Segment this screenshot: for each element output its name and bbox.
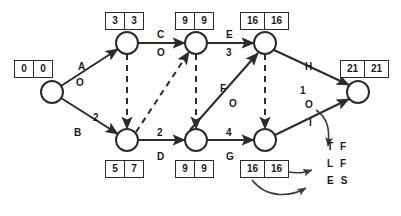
activity-duration-I: O	[305, 100, 313, 110]
legend-es-right: S	[341, 176, 348, 186]
network-diagram-canvas: 0 0 3 3 9 9 16 16 21 21 5 7 9 9 16 16 A …	[0, 0, 401, 216]
activity-label-F: F	[220, 84, 226, 94]
activity-label-E: E	[226, 30, 233, 40]
legend-row-lf: L F	[327, 159, 347, 169]
early-start-value: 3	[106, 13, 125, 29]
activity-label-H: H	[305, 62, 312, 72]
late-finish-value: 3	[125, 13, 143, 29]
activity-label-B: B	[74, 128, 81, 138]
legend-row-tf: T F	[327, 142, 347, 152]
late-finish-value: 9	[195, 13, 213, 29]
value-box-n7[interactable]: 9 9	[175, 160, 214, 178]
event-node-n7[interactable]	[185, 129, 207, 151]
value-box-n3[interactable]: 9 9	[175, 12, 214, 30]
legend-lf-right: F	[340, 159, 346, 169]
value-box-n1[interactable]: 0 0	[14, 60, 53, 78]
early-start-value: 0	[15, 61, 34, 77]
dummy-arrow-n6-n3	[136, 52, 189, 132]
late-finish-value: 7	[125, 161, 143, 177]
activity-label-I: I	[309, 118, 312, 128]
activity-duration-B: 2	[93, 113, 99, 123]
event-node-n5[interactable]	[347, 81, 369, 103]
legend-lf-left: L	[327, 159, 333, 169]
legend-row-es: E S	[327, 176, 347, 186]
value-box-n5[interactable]: 21 21	[340, 60, 389, 78]
legend-pointer-lf	[288, 170, 312, 173]
early-start-value: 9	[176, 13, 195, 29]
event-node-n8[interactable]	[254, 129, 276, 151]
activity-duration-A: O	[76, 78, 84, 88]
event-node-n3[interactable]	[185, 32, 207, 54]
legend-tf-left: T	[327, 142, 333, 152]
value-box-n6[interactable]: 5 7	[105, 160, 144, 178]
activity-arrow-A	[61, 49, 118, 86]
activity-label-C: C	[157, 30, 164, 40]
legend-es-left: E	[327, 176, 334, 186]
activity-duration-C: O	[157, 48, 165, 58]
late-finish-value: 16	[265, 161, 288, 177]
activity-duration-G: 4	[226, 128, 232, 138]
early-start-value: 16	[241, 161, 265, 177]
late-finish-value: 16	[265, 13, 288, 29]
event-node-n1[interactable]	[41, 81, 63, 103]
legend-pointer-es	[252, 180, 306, 195]
value-box-n8[interactable]: 16 16	[240, 160, 289, 178]
activity-duration-D: 2	[157, 128, 163, 138]
early-start-value: 9	[176, 161, 195, 177]
activity-label-G: G	[226, 152, 234, 162]
late-finish-value: 0	[34, 61, 52, 77]
legend: T F L F E S	[327, 142, 347, 193]
event-node-n4[interactable]	[254, 32, 276, 54]
legend-tf-right: F	[340, 142, 346, 152]
activity-label-A: A	[78, 62, 85, 72]
value-box-n4[interactable]: 16 16	[240, 12, 289, 30]
value-box-n2[interactable]: 3 3	[105, 12, 144, 30]
activity-label-D: D	[157, 152, 164, 162]
activity-duration-E: 3	[226, 48, 232, 58]
late-finish-value: 21	[365, 61, 388, 77]
event-node-n2[interactable]	[116, 32, 138, 54]
event-node-n6[interactable]	[116, 129, 138, 151]
early-start-value: 5	[106, 161, 125, 177]
activity-arrow-B	[61, 98, 118, 134]
early-start-value: 21	[341, 61, 365, 77]
activity-duration-H: 1	[300, 86, 306, 96]
activity-duration-F: O	[229, 99, 237, 109]
early-start-value: 16	[241, 13, 265, 29]
late-finish-value: 9	[195, 161, 213, 177]
